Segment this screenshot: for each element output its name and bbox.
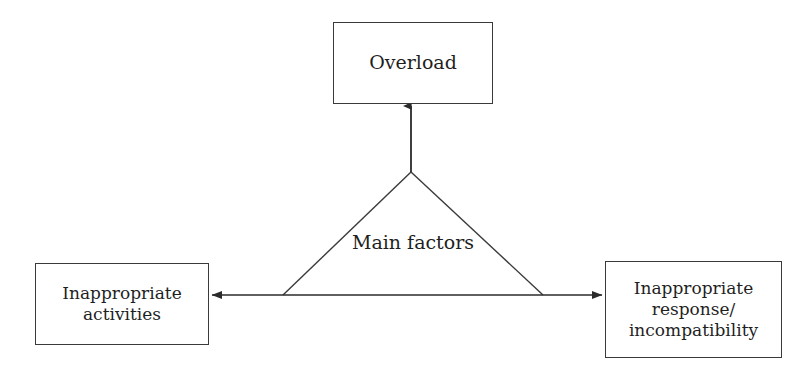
- center-label-main-factors: Main factors: [333, 231, 493, 253]
- node-inappropriate-activities-label: Inappropriate activities: [56, 283, 187, 326]
- node-inappropriate-response-label: Inappropriate response/ incompatibility: [623, 278, 764, 342]
- node-overload: Overload: [333, 22, 493, 104]
- node-overload-label: Overload: [363, 51, 463, 75]
- node-inappropriate-response: Inappropriate response/ incompatibility: [605, 261, 782, 358]
- node-inappropriate-activities: Inappropriate activities: [35, 263, 209, 345]
- diagram-canvas: Overload Inappropriate activities Inappr…: [0, 0, 810, 382]
